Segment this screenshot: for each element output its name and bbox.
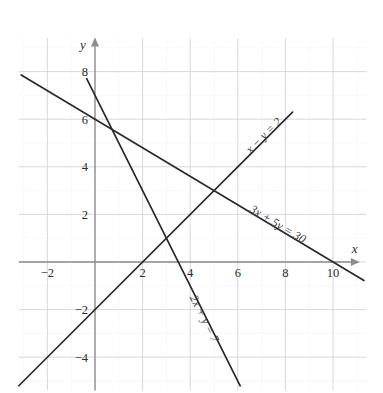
coordinate-plane-svg: −22468108642−2−4 x y x − y = 23x + 5y = … (0, 0, 383, 393)
y-tick-label: 2 (82, 208, 88, 222)
y-tick-label: 4 (82, 160, 89, 174)
equation-labels: x − y = 23x + 5y = 302x + y = 7 (187, 115, 309, 346)
x-tick-label: −2 (41, 266, 54, 280)
y-tick-label: −2 (75, 303, 88, 317)
x-tick-label: 8 (282, 266, 288, 280)
equation-label: 2x + y = 7 (187, 293, 223, 346)
y-tick-label: 8 (82, 65, 88, 79)
y-tick-label: −4 (75, 351, 89, 365)
y-axis-label: y (78, 37, 86, 52)
y-axis-arrow-icon (91, 38, 99, 47)
x-tick-label: 4 (187, 266, 194, 280)
plot-line (21, 75, 364, 281)
x-tick-label: 6 (235, 266, 241, 280)
x-tick-label: 2 (139, 266, 145, 280)
x-tick-label: 10 (327, 266, 340, 280)
plotted-lines (19, 75, 364, 386)
x-axis-label: x (351, 241, 358, 256)
x-axis-arrow-icon (351, 258, 360, 266)
equation-label: 3x + 5y = 30 (247, 201, 309, 246)
equation-label: x − y = 2 (242, 115, 284, 157)
graph-figure: −22468108642−2−4 x y x − y = 23x + 5y = … (0, 0, 383, 393)
